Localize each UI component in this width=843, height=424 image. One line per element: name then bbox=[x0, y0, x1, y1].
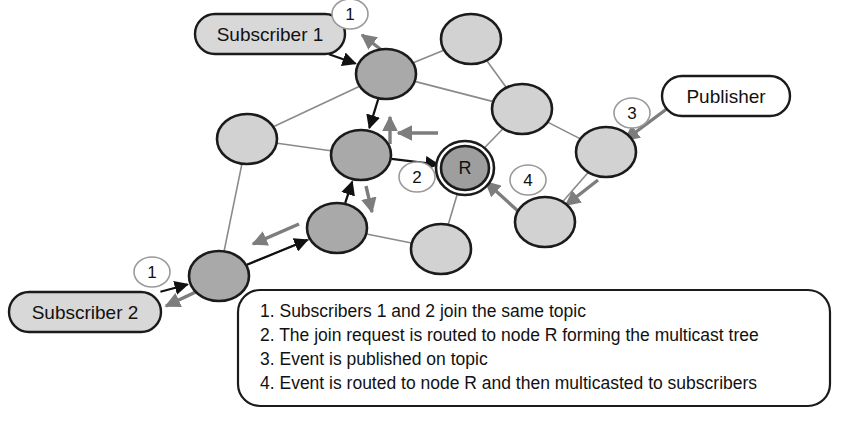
endpoint-subscriber2[interactable]: Subscriber 2 bbox=[9, 292, 161, 332]
network-node[interactable] bbox=[356, 49, 416, 99]
step-badge-label: 2 bbox=[412, 168, 421, 187]
graph-edge bbox=[486, 60, 507, 89]
network-node[interactable] bbox=[411, 224, 471, 274]
endpoint-label: Subscriber 2 bbox=[32, 302, 139, 323]
network-node[interactable] bbox=[189, 251, 249, 301]
badge-2: 2 bbox=[399, 162, 435, 192]
flow-mid-down bbox=[366, 186, 372, 212]
legend-layer: 1. Subscribers 1 and 2 join the same top… bbox=[238, 290, 830, 406]
network-node[interactable] bbox=[576, 127, 636, 177]
root-node-r[interactable]: R bbox=[436, 141, 494, 195]
nodes-layer: R bbox=[189, 14, 636, 301]
network-node[interactable] bbox=[441, 14, 501, 64]
tree-arrow-sub2-to-attach bbox=[160, 284, 187, 291]
step-badge-label: 1 bbox=[345, 5, 354, 24]
network-node[interactable] bbox=[217, 114, 277, 164]
graph-edge bbox=[414, 81, 495, 102]
legend: 1. Subscribers 1 and 2 join the same top… bbox=[238, 290, 830, 406]
badge-1-bottom: 1 bbox=[134, 257, 170, 287]
tree-arrow-sub1-to-node bbox=[329, 54, 355, 63]
badge-3: 3 bbox=[614, 98, 650, 128]
graph-edge bbox=[365, 234, 413, 244]
pubsub-multicast-diagram: R Subscriber 1Subscriber 2Publisher 1234… bbox=[0, 0, 843, 424]
tree-arrow-low-to-mid bbox=[345, 182, 352, 203]
endpoint-label: Subscriber 1 bbox=[217, 24, 324, 45]
network-node[interactable] bbox=[515, 197, 575, 247]
tree-arrow-node-to-mid bbox=[369, 99, 378, 128]
diagram-canvas: R Subscriber 1Subscriber 2Publisher 1234… bbox=[0, 0, 843, 424]
endpoint-label: Publisher bbox=[686, 86, 766, 107]
network-node[interactable] bbox=[307, 203, 367, 253]
legend-line: 1. Subscribers 1 and 2 join the same top… bbox=[260, 301, 586, 321]
endpoint-publisher[interactable]: Publisher bbox=[662, 76, 790, 116]
graph-edge bbox=[547, 122, 582, 140]
step-badge-label: 1 bbox=[147, 263, 156, 282]
badge-4: 4 bbox=[510, 165, 546, 195]
endpoint-subscriber1[interactable]: Subscriber 1 bbox=[195, 14, 345, 54]
badge-1-top: 1 bbox=[332, 0, 368, 29]
network-node[interactable] bbox=[492, 84, 552, 134]
graph-edge bbox=[224, 163, 242, 253]
step-badge-label: 3 bbox=[627, 104, 636, 123]
step-badge-label: 4 bbox=[523, 171, 532, 190]
legend-line: 3. Event is published on topic bbox=[260, 349, 488, 369]
graph-edge bbox=[412, 50, 445, 64]
legend-line: 4. Event is routed to node R and then mu… bbox=[260, 373, 757, 393]
legend-line: 2. The join request is routed to node R … bbox=[260, 325, 759, 345]
flow-low-to-sub2 bbox=[253, 224, 299, 244]
graph-edge bbox=[276, 143, 333, 151]
node-label: R bbox=[459, 158, 472, 178]
graph-edge bbox=[272, 86, 360, 127]
network-node[interactable] bbox=[331, 130, 391, 180]
